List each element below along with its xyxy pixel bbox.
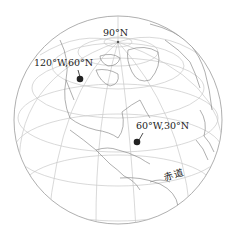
label-120w-60n: 120°W,60°N [34,58,93,68]
north-pole-point [117,41,119,43]
label-90n: 90°N [103,28,128,38]
label-60w-30n: 60°W,30°N [136,121,189,131]
